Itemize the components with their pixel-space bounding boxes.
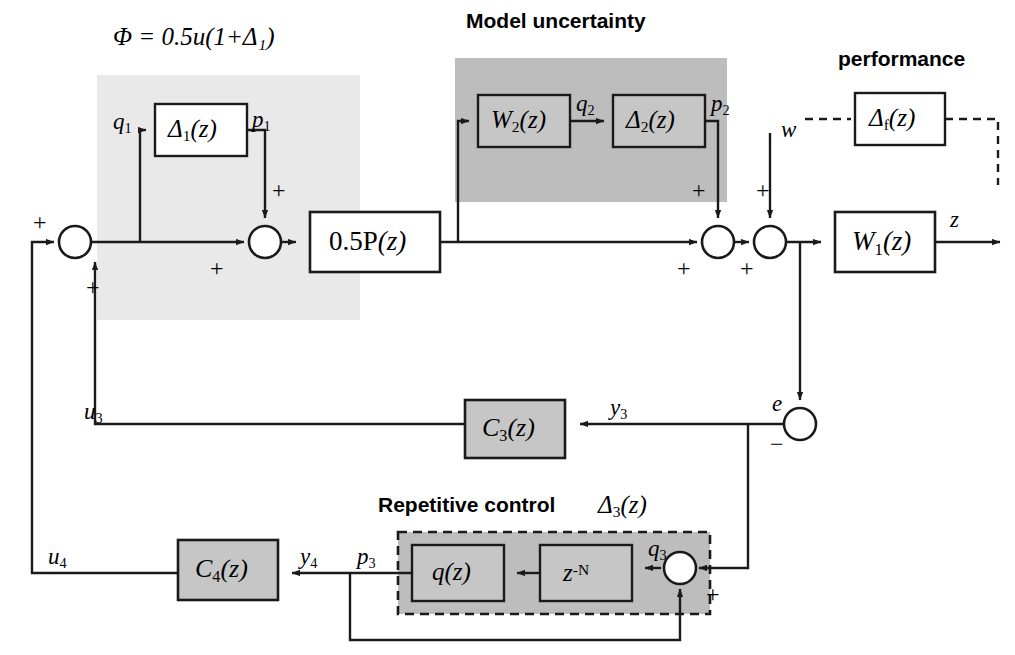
signal-label-u3: u3 [84,400,103,425]
block-label-delta3: Δ3(z) [598,492,647,520]
sum-junction-input [59,226,91,258]
sign-sum3-p2-plus: + [692,178,706,202]
phi-equation: Φ = 0.5u(1+Δ₁) [113,24,275,49]
sign-error-minus: − [770,432,784,456]
sign-sum2-input-plus: + [210,256,224,280]
signal-label-q3: q3 [648,537,667,562]
wire-q1-branch-to-delta1 [140,130,141,242]
signal-label-p2: p2 [711,92,730,117]
block-label-q: q(z) [432,559,471,584]
signal-label-y4: y4 [300,545,317,570]
sign-sum1-u3-plus: + [86,275,100,299]
signal-label-p1: p1 [252,108,271,133]
block-label-delta1: Δ1(z) [168,116,217,144]
performance-heading: performance [838,48,965,69]
sum-junction-w [754,226,786,258]
block-label-deltaf: Δf(z) [869,105,915,133]
block-label-w1: W1(z) [852,228,911,258]
wire-performance-dashed-right [945,119,998,185]
sum-junction-p2 [702,226,734,258]
block-label-w2: W2(z) [491,107,546,135]
signal-label-q1: q1 [113,110,132,135]
signal-label-u4: u4 [48,545,67,570]
block-label-delay: z-N [563,560,589,585]
diagram-vector-layer [0,0,1015,655]
repetitive-control-heading: Repetitive control [378,494,555,515]
block-diagram-canvas: Φ = 0.5u(1+Δ₁) Model uncertainty perform… [0,0,1015,655]
block-label-c4: C4(z) [195,556,248,585]
signal-label-y3: y3 [610,396,627,421]
sign-sum4-w-plus: + [756,178,770,202]
model-uncertainty-heading: Model uncertainty [466,10,646,31]
block-label-c3: C3(z) [482,415,535,444]
sign-sum2-p1-plus: + [272,178,286,202]
sum-junction-delta1 [249,226,281,258]
block-label-plant: 0.5P(z) [329,228,406,255]
signal-label-z: z [950,208,959,231]
signal-label-w: w [781,118,796,141]
signal-label-e: e [772,392,782,415]
sum-junction-q3 [664,552,696,584]
signal-label-q2: q2 [576,92,595,117]
sum-junction-error [784,408,816,440]
sign-sum1-input-plus: + [33,210,47,234]
sign-sum4-input-plus: + [740,256,754,280]
signal-label-p3: p3 [357,545,376,570]
sign-sum3-input-plus: + [677,256,691,280]
sign-q3-feedback-plus: + [706,582,720,606]
block-label-delta2: Δ2(z) [626,107,675,135]
